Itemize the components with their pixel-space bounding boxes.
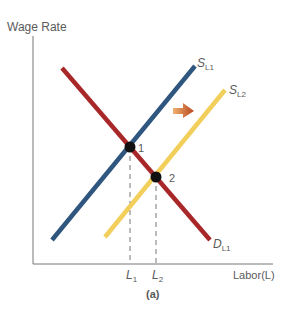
equilibrium-point-2 [151, 172, 162, 183]
shift-right-arrow-icon [173, 103, 194, 118]
l2-tick-main: L [152, 268, 159, 282]
point-1-label: 1 [138, 142, 144, 154]
sl1-label: SL1 [197, 56, 214, 72]
l1-tick-label: L1 [126, 268, 138, 284]
sl1-label-sub: L1 [205, 63, 214, 72]
sl2-label-sub: L2 [237, 90, 246, 99]
sl2-label: SL2 [229, 83, 246, 99]
dl1-label: DL1 [213, 237, 231, 253]
dl1-label-main: D [213, 237, 222, 251]
l2-tick-sub: 2 [159, 275, 164, 284]
point-2-label: 2 [169, 172, 175, 184]
l1-tick-main: L [126, 268, 133, 282]
dl1-label-sub: L1 [222, 244, 231, 253]
l2-tick-label: L2 [152, 268, 164, 284]
equilibrium-point-1 [125, 142, 136, 153]
demand-curve-dl1 [62, 68, 210, 240]
y-axis-label: Wage Rate [7, 20, 67, 34]
labor-market-chart: 1 2 Wage Rate SL1 SL2 DL1 L1 L2 Labor(L)… [0, 0, 294, 323]
sl2-label-main: S [229, 83, 237, 97]
l1-tick-sub: 1 [133, 275, 138, 284]
x-axis-label: Labor(L) [233, 269, 275, 281]
figure-caption: (a) [146, 288, 160, 300]
supply-curve-sl2 [105, 90, 225, 237]
sl1-label-main: S [197, 56, 205, 70]
